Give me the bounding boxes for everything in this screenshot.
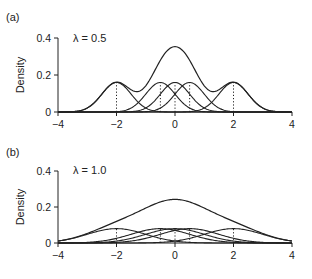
lambda-annotation: λ = 1.0 xyxy=(73,164,106,176)
x-tick-label: −4 xyxy=(52,249,64,261)
y-tick-label: 0.4 xyxy=(36,32,51,44)
panel-label: (a) xyxy=(6,11,19,23)
component-curve xyxy=(58,82,292,112)
panel-label: (b) xyxy=(6,146,19,158)
mixture-curve xyxy=(58,199,292,241)
x-tick-label: 4 xyxy=(289,249,295,261)
component-curve xyxy=(58,82,292,112)
y-tick-label: 0.2 xyxy=(36,201,51,213)
y-tick-label: 0.4 xyxy=(36,165,51,177)
x-tick-label: 4 xyxy=(289,118,295,130)
component-curve xyxy=(58,83,292,113)
y-tick-label: 0 xyxy=(45,106,51,118)
y-axis-label: Density xyxy=(14,56,26,93)
x-tick-label: −4 xyxy=(52,118,64,130)
x-tick-label: 2 xyxy=(231,249,237,261)
density-chart: (a)λ = 0.5Density00.20.4−4−2024(b)λ = 1.… xyxy=(0,0,312,279)
lambda-annotation: λ = 0.5 xyxy=(73,32,106,44)
x-tick-label: 2 xyxy=(231,118,237,130)
x-tick-label: 0 xyxy=(172,118,178,130)
x-tick-label: −2 xyxy=(111,249,123,261)
y-tick-label: 0 xyxy=(45,237,51,249)
x-tick-label: 0 xyxy=(172,249,178,261)
component-curve xyxy=(58,82,292,112)
y-tick-label: 0.2 xyxy=(36,69,51,81)
component-curve xyxy=(58,83,292,113)
y-axis-label: Density xyxy=(14,188,26,225)
x-tick-label: −2 xyxy=(111,118,123,130)
